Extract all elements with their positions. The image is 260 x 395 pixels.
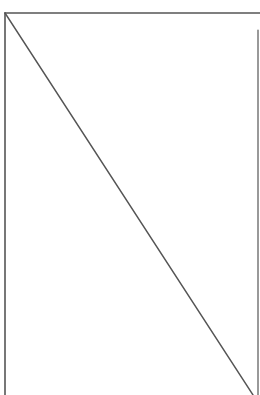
diagram-canvas [0, 0, 260, 395]
diagonal-line [5, 13, 253, 395]
